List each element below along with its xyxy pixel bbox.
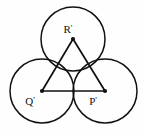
label-r-prime: ' xyxy=(71,23,73,33)
label-r: R' xyxy=(64,23,73,35)
vertex-dot-r xyxy=(71,37,75,41)
figure-canvas: R' Q' P' xyxy=(0,0,143,133)
label-q-letter: Q xyxy=(25,95,33,107)
label-q: Q' xyxy=(25,95,35,107)
label-p: P' xyxy=(89,95,97,107)
vertex-dot-p xyxy=(103,89,107,93)
geometry-figure: R' Q' P' xyxy=(0,0,143,133)
label-q-prime: ' xyxy=(33,95,35,105)
label-p-prime: ' xyxy=(95,95,97,105)
vertex-dot-q xyxy=(40,89,44,93)
